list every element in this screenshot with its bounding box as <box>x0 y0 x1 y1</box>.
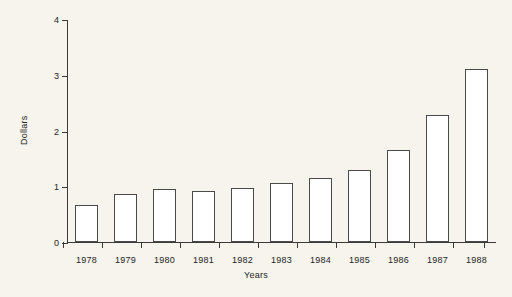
x-axis-tick <box>297 242 298 248</box>
y-axis-tick-label: 0 <box>41 239 59 248</box>
x-axis-tick <box>375 242 376 248</box>
y-axis-tick-label: 4 <box>41 16 59 25</box>
x-axis-tick <box>453 242 454 248</box>
y-axis-tick-label: 1 <box>41 183 59 192</box>
x-axis-tick-label: 1987 <box>418 255 458 265</box>
bar-1978 <box>75 205 98 242</box>
bar-1986 <box>387 150 410 242</box>
plot-area: 0123419781979198019811982198319841985198… <box>67 20 496 243</box>
x-axis-tick <box>219 242 220 248</box>
y-axis-tick <box>62 76 68 77</box>
bar-1980 <box>153 189 176 242</box>
y-axis-tick-label: 2 <box>41 128 59 137</box>
x-axis-tick-label: 1986 <box>379 255 419 265</box>
y-axis-tick <box>62 20 68 21</box>
x-axis-tick-label: 1980 <box>145 255 185 265</box>
x-axis-tick <box>180 242 181 248</box>
x-axis-tick <box>63 242 64 248</box>
x-axis-tick-label: 1982 <box>223 255 263 265</box>
bar-chart: Dollars 01234197819791980198119821983198… <box>0 0 512 297</box>
x-axis-tick <box>141 242 142 248</box>
x-axis-tick <box>484 242 485 248</box>
x-axis-tick-label: 1983 <box>262 255 302 265</box>
x-axis-line <box>67 242 496 243</box>
x-axis-tick <box>102 242 103 248</box>
y-axis-tick-label: 3 <box>41 72 59 81</box>
bar-1983 <box>270 183 293 242</box>
bar-1988 <box>465 69 488 242</box>
bar-1984 <box>309 178 332 242</box>
bar-1987 <box>426 115 449 242</box>
x-axis-tick <box>336 242 337 248</box>
bar-1982 <box>231 188 254 242</box>
x-axis-tick-label: 1985 <box>340 255 380 265</box>
x-axis-tick-label: 1979 <box>106 255 146 265</box>
y-axis-title: Dollars <box>14 95 34 165</box>
bar-1981 <box>192 191 215 242</box>
x-axis-tick-label: 1978 <box>67 255 107 265</box>
x-axis-tick-label: 1988 <box>457 255 497 265</box>
bar-1979 <box>114 194 137 243</box>
x-axis-tick <box>258 242 259 248</box>
y-axis-tick <box>62 187 68 188</box>
bar-1985 <box>348 170 371 242</box>
x-axis-title: Years <box>0 270 512 280</box>
x-axis-tick-label: 1984 <box>301 255 341 265</box>
y-axis-tick <box>62 132 68 133</box>
x-axis-tick <box>414 242 415 248</box>
x-axis-tick-label: 1981 <box>184 255 224 265</box>
